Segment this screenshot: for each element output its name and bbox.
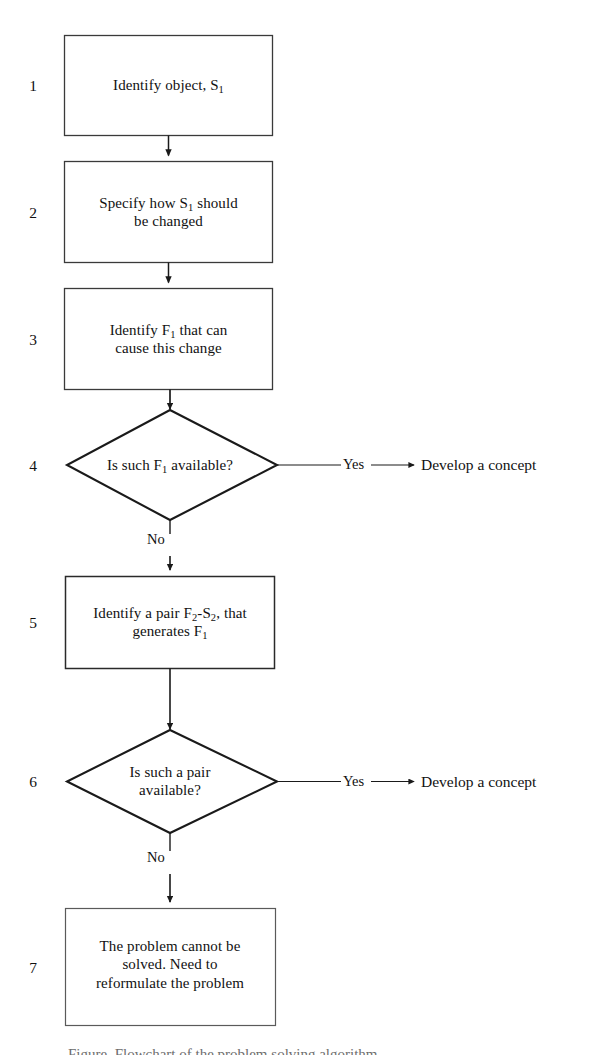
terminal-develop-concept-6: Develop a concept [421,774,536,790]
step-number-7: 7 [20,960,46,976]
node-2-label: Specify how S1 shouldbe changed [64,194,273,231]
node-6-label: Is such a pairavailable? [64,763,276,800]
edge-label-no-6: No [145,850,167,865]
edge-label-yes-4: Yes [341,457,366,472]
node-label-line: Is such a pair [64,763,276,781]
node-label-line: Specify how S1 should [64,194,273,212]
step-number-2: 2 [20,205,46,221]
step-number-4: 4 [20,458,46,474]
node-label-line: Is such F1 available? [64,456,276,474]
node-3-label: Identify F1 that cancause this change [64,321,273,358]
step-number-3: 3 [20,332,46,348]
node-7-label: The problem cannot besolved. Need torefo… [64,937,276,992]
node-label-line: The problem cannot be [64,937,276,955]
node-4-label: Is such F1 available? [64,456,276,474]
node-label-line: solved. Need to [64,955,276,973]
page-caption-sliver: Figure. Flowchart of the problem solving… [68,1047,568,1055]
edge-label-yes-6: Yes [341,774,366,789]
node-1-label: Identify object, S1 [64,76,273,94]
node-label-line: generates F1 [64,622,276,640]
node-label-line: cause this change [64,339,273,357]
step-number-6: 6 [20,774,46,790]
flowchart-page: 1 2 3 4 5 6 7 Identify object, S1 Specif… [0,0,606,1055]
node-5-label: Identify a pair F2-S2, thatgenerates F1 [64,604,276,641]
node-label-line: Identify a pair F2-S2, that [64,604,276,622]
node-label-line: be changed [64,212,273,230]
flowchart-canvas [0,0,606,1055]
step-number-1: 1 [20,78,46,94]
terminal-develop-concept-4: Develop a concept [421,457,536,473]
node-label-line: Identify object, S1 [64,76,273,94]
edge-label-no-4: No [145,532,167,547]
node-label-line: reformulate the problem [64,974,276,992]
node-label-line: available? [64,781,276,799]
node-label-line: Identify F1 that can [64,321,273,339]
step-number-5: 5 [20,615,46,631]
